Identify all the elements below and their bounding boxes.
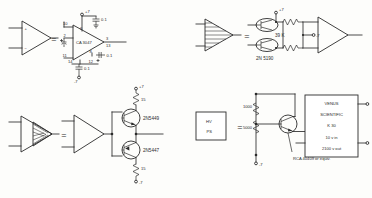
- circuit-hatched-amp: = 2N 5190 +7: [196, 7, 362, 61]
- hv-ps-brand-line2: SCIENTIFIC: [320, 112, 343, 117]
- power-buffer-resistor-bottom-label: 15: [141, 166, 146, 171]
- circuit-hv-ps: HV PS = 1000 5000 -7: [196, 93, 369, 167]
- hv-ps-equals-sign: =: [237, 122, 242, 132]
- opamp-symbol-plus-label: +: [25, 26, 28, 31]
- opamp-cap-top-label: 0.1: [101, 17, 107, 22]
- power-buffer-equals-sign: =: [61, 130, 66, 140]
- opamp-pin-2-label: 2: [64, 33, 67, 38]
- hv-ps-resistor-1000-label: 1000: [243, 104, 253, 109]
- opamp-cap-bottom-label: 0.1: [84, 66, 90, 71]
- opamp-pin-12-label: 12: [89, 59, 94, 64]
- opamp-symbol-minus-label: −: [25, 46, 28, 51]
- opamp-pin-13-label: 13: [106, 43, 111, 48]
- hv-ps-symbol-line1: HV: [206, 119, 212, 124]
- hatched-amp-positive-supply-label: +7: [279, 7, 284, 12]
- schematic-sheet: + − = CA 3047 10 2 11: [0, 0, 372, 198]
- opamp-pin-14-label: 14: [68, 59, 73, 64]
- hv-ps-pass-transistor: [255, 115, 297, 133]
- hv-ps-resistor-5000-label: 5000: [243, 125, 253, 130]
- opamp-pin-10-label: 10: [63, 21, 68, 26]
- schematic-canvas: + − = CA 3047 10 2 11: [0, 0, 372, 198]
- hatched-amp-symbol: [196, 19, 241, 51]
- opamp-device-label: CA 3047: [76, 40, 92, 45]
- opamp-pin-11-label: 11: [63, 53, 68, 58]
- hv-ps-transistor-note: RCA 40409 or equiv.: [293, 156, 331, 161]
- power-buffer-transistor-pnp: [122, 141, 140, 159]
- hv-ps-module-box: VENUS SCIENTIFIC K 30 10 v in 2100 v out: [305, 95, 358, 157]
- power-buffer-npn-label: 2N5449: [143, 116, 160, 121]
- hv-ps-symbol-box: HV PS: [196, 112, 226, 140]
- opamp-equals-sign: =: [51, 34, 56, 44]
- power-buffer-positive-supply-label: +7: [139, 84, 144, 89]
- hv-ps-output-spec-label: 2100 v out: [322, 146, 342, 151]
- hatched-amp-device-label: 2N 5190: [256, 56, 274, 61]
- power-buffer-pnp-label: 2N5447: [143, 148, 160, 153]
- hv-ps-input-spec-label: 10 v in: [325, 135, 338, 140]
- power-buffer-symbol: [9, 116, 59, 152]
- hatched-amp-resistor-label: 39 K: [275, 33, 285, 38]
- circuit-power-buffer: = 2N5449: [9, 84, 163, 185]
- power-buffer-resistor-top-label: 15: [141, 97, 146, 102]
- power-buffer-transistor-npn: [122, 109, 140, 127]
- hv-ps-brand-line1: VENUS: [324, 101, 338, 106]
- opamp-pin-3-label: 3: [106, 36, 109, 41]
- hv-ps-negative-supply-label: -7: [259, 162, 263, 167]
- hv-ps-model-label: K 30: [327, 123, 336, 128]
- opamp-negative-supply-label: -7: [74, 79, 78, 84]
- circuit-opamp: + − = CA 3047 10 2 11: [9, 9, 126, 85]
- power-buffer-negative-supply-label: -7: [139, 180, 143, 185]
- hatched-amp-equals-sign: =: [244, 31, 249, 41]
- opamp-cap-right-label: 0.1: [107, 53, 113, 58]
- opamp-positive-supply-label: +7: [85, 9, 90, 14]
- hv-ps-symbol-line2: PS: [207, 129, 213, 134]
